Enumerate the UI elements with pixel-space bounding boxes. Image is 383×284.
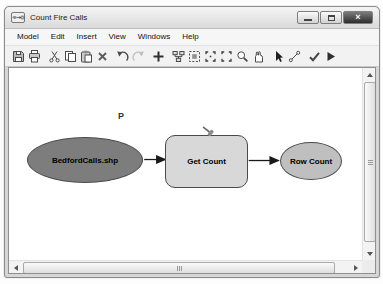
copy-icon [64,50,77,63]
scrollbar-corner [362,260,375,273]
close-icon: × [355,13,360,22]
add-data-button[interactable] [150,48,166,64]
paste-button[interactable] [78,48,94,64]
zoom-button[interactable] [234,48,250,64]
horizontal-scrollbar[interactable] [9,260,362,273]
magnifier-icon [236,50,249,63]
model-canvas[interactable]: P BedfordCalls.shp Get Count [9,68,362,260]
cut-icon [48,50,61,63]
select-button[interactable] [270,48,286,64]
auto-layout-icon [172,50,185,63]
auto-layout-button[interactable] [170,48,186,64]
maximize-icon [328,15,335,21]
close-button[interactable]: × [343,11,373,24]
undo-button[interactable] [114,48,130,64]
maximize-button[interactable] [320,11,342,24]
menu-edit[interactable]: Edit [45,29,71,45]
scroll-down-button[interactable] [363,247,376,260]
paste-icon [80,50,93,63]
tool-node[interactable]: Get Count [165,135,248,188]
window-title: Count Fire Calls [30,13,87,22]
print-button[interactable] [26,48,42,64]
save-icon [12,50,25,63]
menu-help[interactable]: Help [176,29,204,45]
minimize-icon [304,19,312,21]
scroll-up-icon [367,73,373,77]
add-data-icon [152,50,165,63]
screenshot-page: Count Fire Calls × Model Edit Insert Vie… [0,0,383,284]
fixed-zoom-in-icon [204,50,217,63]
cut-button[interactable] [46,48,62,64]
scroll-down-icon [367,252,373,256]
input-data-label: BedfordCalls.shp [52,156,118,165]
redo-button[interactable] [130,48,146,64]
input-data-node[interactable]: BedfordCalls.shp [27,137,143,183]
vertical-scrollbar[interactable] [362,68,375,260]
tool-label: Get Count [187,157,226,166]
run-play-icon [324,50,337,63]
scroll-left-button[interactable] [9,261,22,274]
parameter-label: P [118,111,124,121]
model-client-area: P BedfordCalls.shp Get Count [8,67,376,274]
title-bar[interactable]: Count Fire Calls × [5,7,379,29]
menu-windows[interactable]: Windows [132,29,176,45]
validate-check-icon [308,50,321,63]
scroll-right-icon [354,265,358,271]
menu-model[interactable]: Model [11,29,45,45]
add-connection-button[interactable] [286,48,302,64]
full-extent-icon [188,50,201,63]
delete-icon [96,50,109,63]
derived-data-node[interactable]: Row Count [280,142,342,180]
menu-view[interactable]: View [103,29,132,45]
print-icon [28,50,41,63]
horizontal-scroll-thumb[interactable] [23,262,335,274]
menu-insert[interactable]: Insert [71,29,103,45]
scroll-left-icon [14,265,18,271]
toolbar [5,46,379,67]
derived-data-label: Row Count [290,157,332,166]
tool-hammer-icon [199,123,217,139]
modelbuilder-window: Count Fire Calls × Model Edit Insert Vie… [4,6,380,278]
validate-button[interactable] [306,48,322,64]
undo-icon [116,50,129,63]
save-button[interactable] [10,48,26,64]
modelbuilder-window-icon [11,12,25,23]
pan-button[interactable] [250,48,266,64]
redo-icon [132,50,145,63]
minimize-button[interactable] [297,11,319,24]
vertical-scroll-thumb[interactable] [364,82,376,242]
pan-hand-icon [252,50,265,63]
fixed-zoom-out-icon [220,50,233,63]
run-button[interactable] [322,48,338,64]
full-extent-button[interactable] [186,48,202,64]
scroll-right-button[interactable] [349,261,362,274]
connect-icon [288,50,301,63]
delete-button[interactable] [94,48,110,64]
select-cursor-icon [272,50,285,63]
copy-button[interactable] [62,48,78,64]
scroll-up-button[interactable] [363,68,376,81]
menu-bar: Model Edit Insert View Windows Help [5,29,379,46]
window-controls: × [297,11,373,24]
fixed-zoom-in-button[interactable] [202,48,218,64]
fixed-zoom-out-button[interactable] [218,48,234,64]
